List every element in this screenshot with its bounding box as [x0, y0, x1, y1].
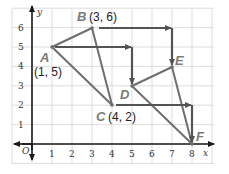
- label-b: B: [77, 9, 86, 24]
- x-tick-label: 7: [169, 149, 175, 159]
- segment-df: [132, 86, 192, 144]
- y-tick-label: 3: [18, 81, 24, 91]
- point-labels: A (1, 5) B (3, 6) C (4, 2) D E F: [34, 9, 205, 144]
- label-e: E: [175, 53, 184, 68]
- x-axis-label: x: [203, 148, 208, 158]
- point-a: [50, 45, 54, 49]
- point-b: [90, 26, 94, 30]
- x-tick-label: 8: [189, 149, 195, 159]
- y-tick-label: 4: [18, 61, 24, 71]
- y-tick-label: 5: [18, 42, 24, 52]
- y-tick-label: 6: [18, 23, 24, 33]
- point-e: [170, 65, 174, 69]
- label-f: F: [196, 129, 205, 144]
- point-f: [190, 142, 194, 146]
- point-d: [130, 84, 134, 88]
- grid: [12, 8, 214, 164]
- label-c: C: [96, 109, 106, 124]
- label-d: D: [120, 87, 130, 102]
- coord-c: (4, 2): [108, 110, 136, 124]
- x-tick-label: 2: [69, 149, 75, 159]
- label-a: A: [39, 50, 49, 65]
- coord-b: (3, 6): [89, 10, 117, 24]
- y-axis-label: y: [36, 7, 43, 17]
- point-c: [110, 103, 114, 107]
- coordinate-plane: x y O 12345678123456 A (1, 5) B (3, 6) C: [0, 0, 229, 174]
- origin-label: O: [22, 146, 30, 156]
- tick-labels: 12345678123456: [18, 23, 195, 159]
- x-tick-label: 4: [109, 149, 115, 159]
- y-tick-label: 1: [18, 120, 24, 130]
- y-tick-label: 2: [18, 100, 24, 110]
- coord-a: (1, 5): [34, 65, 62, 79]
- x-tick-label: 3: [89, 149, 95, 159]
- x-tick-label: 6: [149, 149, 155, 159]
- x-tick-label: 5: [129, 149, 135, 159]
- x-tick-label: 1: [49, 149, 55, 159]
